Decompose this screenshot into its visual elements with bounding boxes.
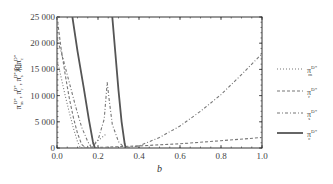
series-line-dash-dot bbox=[57, 38, 262, 148]
series-line-solid bbox=[112, 17, 125, 148]
y-tick-label: 20 000 bbox=[30, 38, 55, 48]
x-tick-label: 0.4 bbox=[133, 151, 145, 161]
y-tick-label: 15 000 bbox=[30, 64, 55, 74]
x-axis-label: b bbox=[157, 163, 162, 174]
legend-label: πD*s bbox=[307, 109, 318, 121]
chart: 0.00.20.40.60.81.005 00010 00015 00020 0… bbox=[0, 0, 333, 184]
plot-area bbox=[57, 17, 262, 148]
y-tick-label: 0 bbox=[51, 143, 56, 153]
y-tick-label: 10 000 bbox=[30, 91, 55, 101]
x-tick-label: 1.0 bbox=[256, 151, 268, 161]
plot-frame bbox=[57, 17, 262, 148]
x-tick-label: 0.2 bbox=[92, 151, 103, 161]
y-tick-label: 25 000 bbox=[30, 12, 55, 22]
svg-text:πmD*, πrD*, πsD*和πcD*: πmD*, πrD*, πsD*和πcD* bbox=[13, 54, 24, 109]
plot-series bbox=[57, 17, 262, 148]
legend-label: πD*c bbox=[307, 129, 318, 141]
series-line-dashed bbox=[57, 17, 262, 148]
y-axis-label: πmD*, πrD*, πsD*和πcD* bbox=[13, 54, 24, 109]
axis-ticks: 0.00.20.40.60.81.005 00010 00015 00020 0… bbox=[30, 12, 268, 161]
legend-label: πD*r bbox=[307, 87, 318, 99]
legend: πD*mπD*rπD*sπD*c bbox=[277, 65, 318, 141]
y-tick-label: 5 000 bbox=[35, 117, 56, 127]
legend-label: πD*m bbox=[307, 65, 318, 77]
x-tick-label: 0.8 bbox=[215, 151, 227, 161]
x-tick-label: 0.6 bbox=[174, 151, 186, 161]
